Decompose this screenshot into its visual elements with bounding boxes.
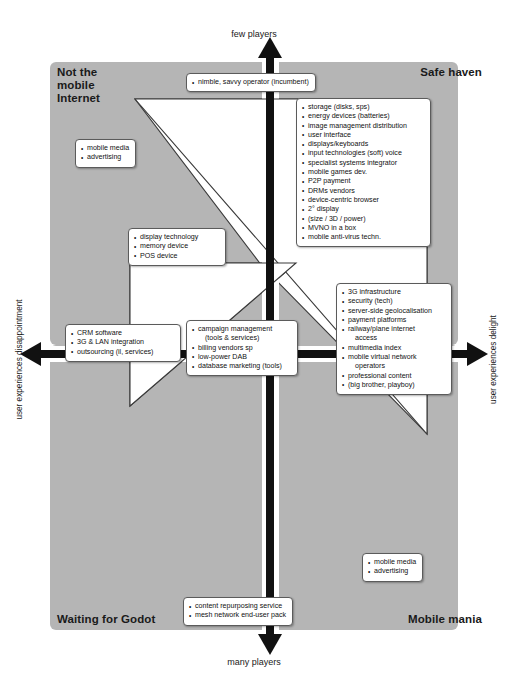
callout-display-technology[interactable]: display technologymemory devicePOS devic… bbox=[128, 228, 226, 266]
callout-item: mesh network end-user pack bbox=[189, 611, 286, 620]
callout-safe-haven[interactable]: storage (disks, sps)energy devices (batt… bbox=[296, 98, 431, 247]
callout-list: display technologymemory devicePOS devic… bbox=[134, 233, 219, 261]
callout-item: POS device bbox=[134, 252, 219, 261]
callout-list: 3G infrastructuresecurity (tech)server-s… bbox=[342, 288, 445, 390]
callout-item: energy devices (batteries) bbox=[302, 112, 424, 121]
callout-item: mobile anti-virus techn. bbox=[302, 233, 424, 242]
callout-item: database marketing (tools) bbox=[192, 362, 291, 371]
axis-label-few-players: few players bbox=[0, 29, 508, 39]
callout-item: advertising bbox=[81, 153, 129, 162]
callout-item: mobile games dev. bbox=[302, 168, 424, 177]
callout-item: access bbox=[342, 334, 445, 343]
callout-item: CRM software bbox=[71, 329, 174, 338]
callout-item: mobile media bbox=[81, 144, 129, 153]
callout-item: security (tech) bbox=[342, 297, 445, 306]
axis-label-user-delight: user experiences delight bbox=[489, 290, 498, 430]
callout-item: server-side geolocalisation bbox=[342, 307, 445, 316]
callout-item: advertising bbox=[368, 567, 416, 576]
quadrant-title-mobile-mania: Mobile mania bbox=[408, 613, 482, 626]
callout-center[interactable]: campaign management(tools & services)bil… bbox=[186, 320, 298, 376]
callout-item: railway/plane internet bbox=[342, 325, 445, 334]
axis-label-user-disappointment: user experiences disappointment bbox=[15, 290, 24, 430]
callout-list: mobile mediaadvertising bbox=[81, 144, 129, 163]
axis-label-many-players: many players bbox=[0, 657, 508, 667]
callout-item: billing vendors sp bbox=[192, 344, 291, 353]
quadrant-title-waiting-for-godot: Waiting for Godot bbox=[57, 613, 155, 626]
callout-item: professional content bbox=[342, 372, 445, 381]
callout-item: content repurposing service bbox=[189, 602, 286, 611]
quadrant-title-safe-haven: Safe haven bbox=[420, 66, 482, 79]
arrow-head-right bbox=[467, 342, 488, 366]
callout-top-center[interactable]: nimble, savvy operator (incumbent) bbox=[186, 73, 316, 92]
callout-item: nimble, savvy operator (incumbent) bbox=[192, 78, 309, 87]
callout-item: displays/keyboards bbox=[302, 140, 424, 149]
callout-item: (big brother, playboy) bbox=[342, 381, 445, 390]
callout-item: P2P payment bbox=[302, 177, 424, 186]
callout-item: multimedia index bbox=[342, 344, 445, 353]
callout-item: payment platforms bbox=[342, 316, 445, 325]
callout-item: mobile virtual network bbox=[342, 353, 445, 362]
callout-item: display technology bbox=[134, 233, 219, 242]
callout-item: operators bbox=[342, 362, 445, 371]
callout-item: memory device bbox=[134, 242, 219, 251]
callout-item: outsourcing (il, services) bbox=[71, 348, 174, 357]
callout-item: specialist systems integrator bbox=[302, 159, 424, 168]
callout-item: mobile media bbox=[368, 558, 416, 567]
callout-west[interactable]: CRM software3G & LAN integrationoutsourc… bbox=[65, 324, 181, 362]
quadrant-title-not-the-mobile-internet: Not the mobile Internet bbox=[57, 66, 100, 105]
callout-list: CRM software3G & LAN integrationoutsourc… bbox=[71, 329, 174, 357]
callout-list: nimble, savvy operator (incumbent) bbox=[192, 78, 309, 87]
callout-bottom-center[interactable]: content repurposing servicemesh network … bbox=[183, 597, 293, 626]
callout-not-the-mobile-internet[interactable]: mobile mediaadvertising bbox=[75, 139, 136, 168]
callout-east[interactable]: 3G infrastructuresecurity (tech)server-s… bbox=[336, 283, 452, 395]
diagram-canvas: few players many players user experience… bbox=[0, 0, 508, 691]
callout-item: low-power DAB bbox=[192, 353, 291, 362]
callout-item: storage (disks, sps) bbox=[302, 103, 424, 112]
callout-item: 3G infrastructure bbox=[342, 288, 445, 297]
callout-item: 3G & LAN integration bbox=[71, 338, 174, 347]
callout-item: user interface bbox=[302, 131, 424, 140]
callout-mobile-mania[interactable]: mobile mediaadvertising bbox=[362, 553, 423, 582]
callout-list: mobile mediaadvertising bbox=[368, 558, 416, 577]
callout-list: storage (disks, sps)energy devices (batt… bbox=[302, 103, 424, 242]
callout-item: 2° display bbox=[302, 205, 424, 214]
callout-list: campaign management(tools & services)bil… bbox=[192, 325, 291, 371]
callout-item: device-centric browser bbox=[302, 196, 424, 205]
callout-item: (tools & services) bbox=[192, 334, 291, 343]
callout-item: MVNO in a box bbox=[302, 224, 424, 233]
callout-item: (size / 3D / power) bbox=[302, 215, 424, 224]
callout-item: input technologies (soft) voice bbox=[302, 149, 424, 158]
callout-item: DRMs vendors bbox=[302, 187, 424, 196]
callout-item: campaign management bbox=[192, 325, 291, 334]
callout-item: image management distribution bbox=[302, 122, 424, 131]
callout-list: content repurposing servicemesh network … bbox=[189, 602, 286, 621]
